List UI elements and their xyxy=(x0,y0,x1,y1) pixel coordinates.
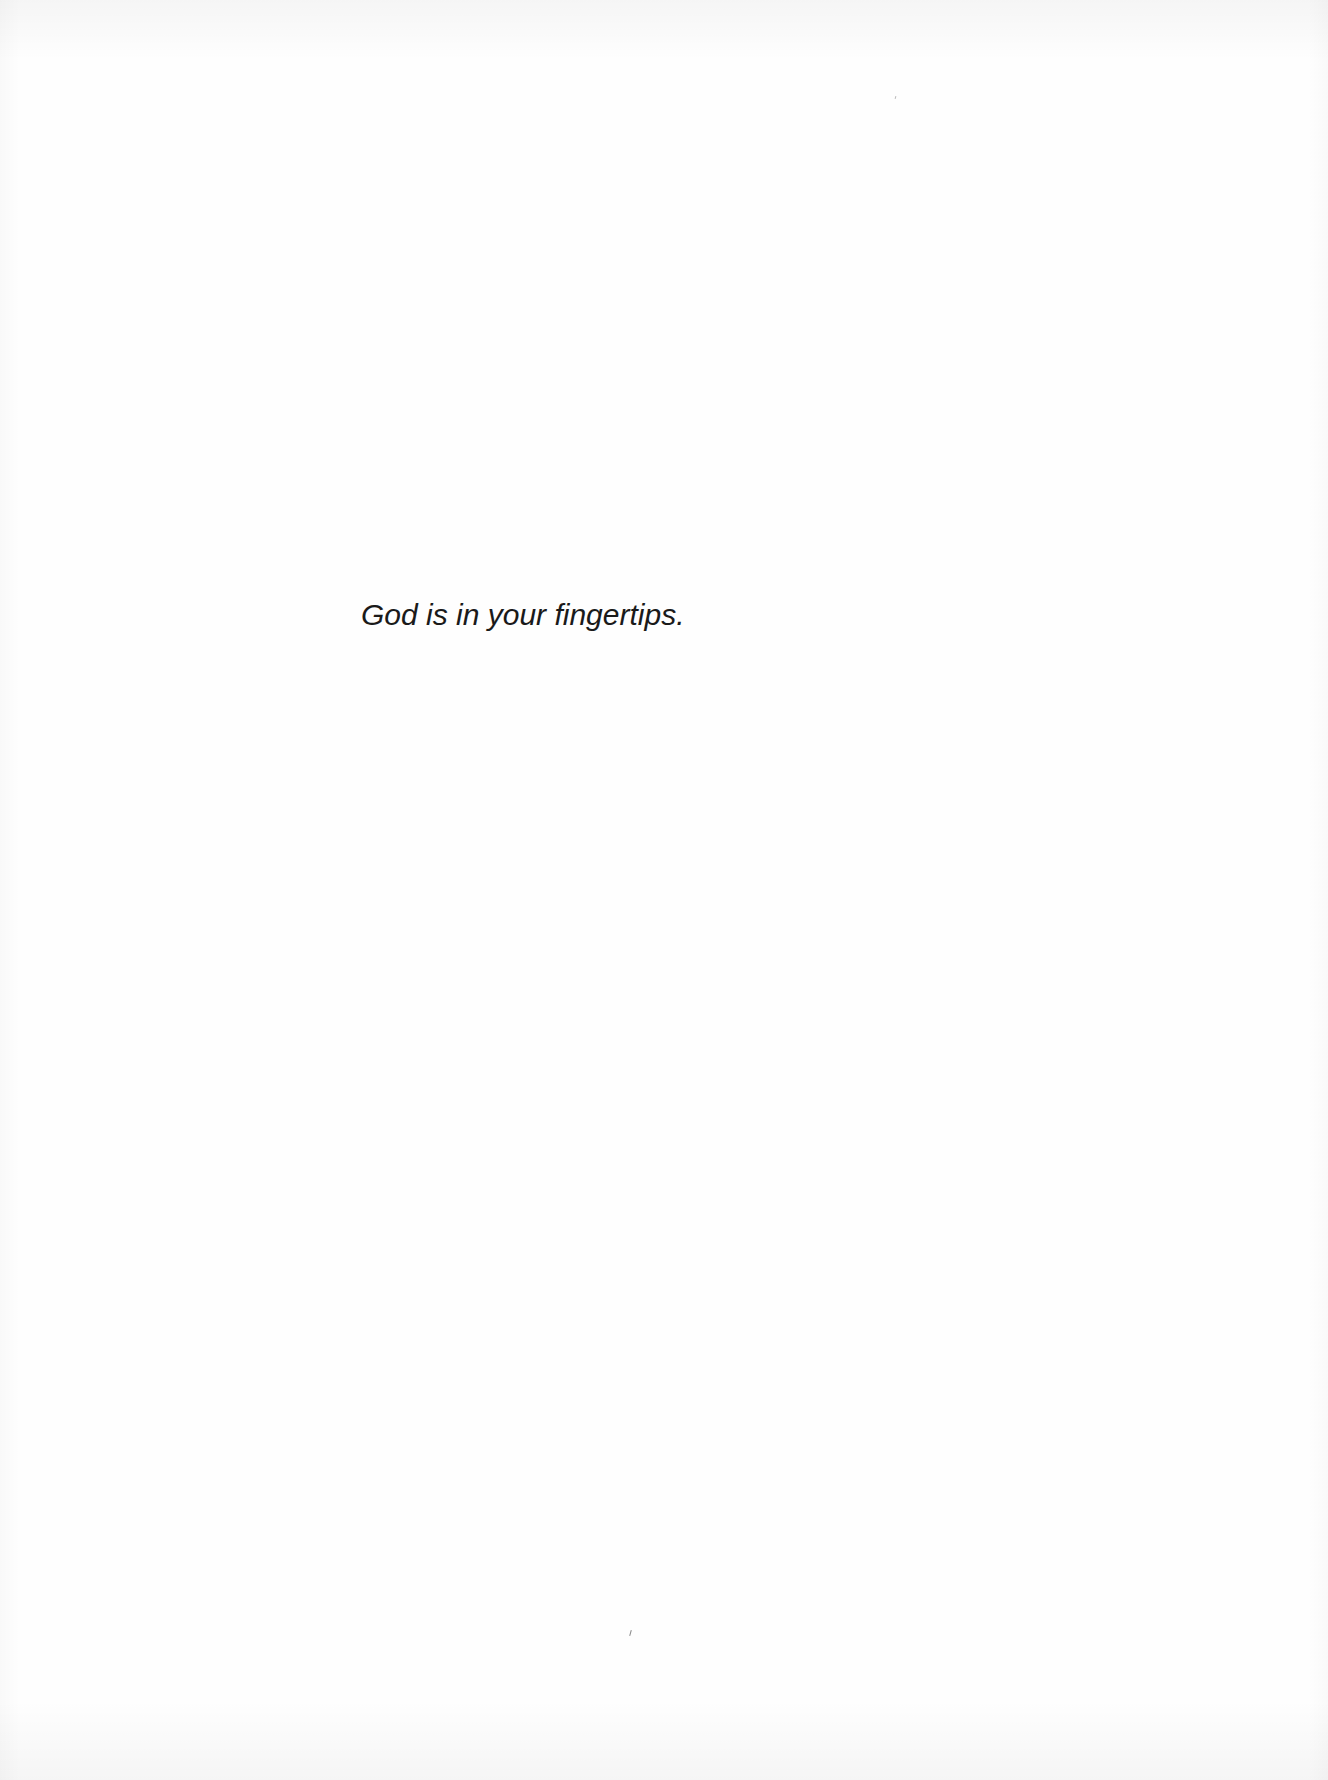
body-text-line: God is in your fingertips. xyxy=(361,598,684,632)
scan-artifact xyxy=(895,96,897,99)
scan-artifact xyxy=(629,1630,632,1636)
scanned-page: God is in your fingertips. xyxy=(0,0,1328,1780)
